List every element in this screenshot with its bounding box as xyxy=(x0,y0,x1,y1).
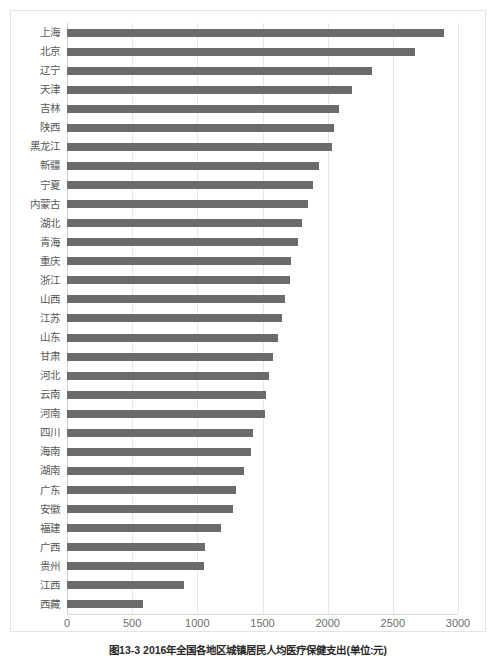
category-label: 江苏 xyxy=(40,309,60,328)
x-tick-label: 3000 xyxy=(446,617,470,629)
bar xyxy=(67,219,302,227)
bar-row: 新疆 xyxy=(67,156,458,175)
bar-row: 广东 xyxy=(67,481,458,500)
bar-row: 山西 xyxy=(67,290,458,309)
bar xyxy=(67,238,298,246)
category-label: 上海 xyxy=(40,23,60,42)
bar-row: 浙江 xyxy=(67,271,458,290)
bar xyxy=(67,391,266,399)
bar xyxy=(67,181,313,189)
figure-caption: 图13-3 2016年全国各地区城镇居民人均医疗保健支出(单位:元) xyxy=(0,641,496,660)
bar-row: 青海 xyxy=(67,233,458,252)
x-tick-label: 500 xyxy=(123,617,141,629)
bar xyxy=(67,143,332,151)
category-label: 吉林 xyxy=(40,99,60,118)
bar-row: 河南 xyxy=(67,404,458,423)
bar-row: 湖南 xyxy=(67,461,458,480)
bar-row: 陕西 xyxy=(67,118,458,137)
figure-container: 上海北京辽宁天津吉林陕西黑龙江新疆宁夏内蒙古湖北青海重庆浙江山西江苏山东甘肃河北… xyxy=(10,10,486,632)
bar xyxy=(67,29,444,37)
bar xyxy=(67,524,221,532)
bar-row: 江西 xyxy=(67,576,458,595)
category-label: 广西 xyxy=(40,538,60,557)
category-label: 四川 xyxy=(40,423,60,442)
bar xyxy=(67,162,319,170)
category-label: 福建 xyxy=(40,519,60,538)
category-label: 新疆 xyxy=(40,156,60,175)
bar xyxy=(67,334,278,342)
bar-row: 重庆 xyxy=(67,252,458,271)
x-tick-label: 2000 xyxy=(315,617,339,629)
category-label: 天津 xyxy=(40,80,60,99)
x-tick-label: 0 xyxy=(64,617,70,629)
bar-row: 宁夏 xyxy=(67,176,458,195)
bar-row: 福建 xyxy=(67,519,458,538)
bar xyxy=(67,505,233,513)
bar-row: 西藏 xyxy=(67,595,458,614)
x-tick-label: 1000 xyxy=(185,617,209,629)
bar-row: 湖北 xyxy=(67,214,458,233)
bar xyxy=(67,314,282,322)
bar xyxy=(67,410,265,418)
bar-row: 黑龙江 xyxy=(67,137,458,156)
x-tick-label: 2500 xyxy=(381,617,405,629)
bar xyxy=(67,257,291,265)
bar xyxy=(67,429,253,437)
category-label: 浙江 xyxy=(40,271,60,290)
category-label: 湖南 xyxy=(40,461,60,480)
bar-row: 四川 xyxy=(67,423,458,442)
bar xyxy=(67,48,415,56)
bar xyxy=(67,105,339,113)
category-label: 山东 xyxy=(40,328,60,347)
bar-row: 河北 xyxy=(67,366,458,385)
bar xyxy=(67,448,251,456)
bar xyxy=(67,581,184,589)
bar xyxy=(67,124,334,132)
category-label: 河北 xyxy=(40,366,60,385)
category-label: 黑龙江 xyxy=(30,137,60,156)
bar-row: 内蒙古 xyxy=(67,195,458,214)
bar xyxy=(67,295,285,303)
bar-row: 安徽 xyxy=(67,500,458,519)
bar xyxy=(67,467,244,475)
category-label: 云南 xyxy=(40,385,60,404)
bar xyxy=(67,86,352,94)
category-label: 宁夏 xyxy=(40,176,60,195)
x-axis-baseline xyxy=(67,614,458,615)
bar-row: 天津 xyxy=(67,80,458,99)
category-label: 海南 xyxy=(40,442,60,461)
category-label: 广东 xyxy=(40,481,60,500)
bar xyxy=(67,200,308,208)
bar xyxy=(67,353,273,361)
bar-row: 吉林 xyxy=(67,99,458,118)
category-label: 内蒙古 xyxy=(30,195,60,214)
plot-area: 上海北京辽宁天津吉林陕西黑龙江新疆宁夏内蒙古湖北青海重庆浙江山西江苏山东甘肃河北… xyxy=(67,23,458,614)
bar-row: 海南 xyxy=(67,442,458,461)
category-label: 青海 xyxy=(40,233,60,252)
bar-row: 山东 xyxy=(67,328,458,347)
category-label: 甘肃 xyxy=(40,347,60,366)
category-label: 重庆 xyxy=(40,252,60,271)
category-label: 贵州 xyxy=(40,557,60,576)
category-label: 西藏 xyxy=(40,595,60,614)
category-label: 辽宁 xyxy=(40,61,60,80)
category-label: 北京 xyxy=(40,42,60,61)
category-label: 陕西 xyxy=(40,118,60,137)
bar xyxy=(67,372,269,380)
bar-row: 云南 xyxy=(67,385,458,404)
bar xyxy=(67,67,372,75)
gridline-3000 xyxy=(458,23,459,614)
bar-row: 贵州 xyxy=(67,557,458,576)
bar-row: 广西 xyxy=(67,538,458,557)
bar xyxy=(67,486,236,494)
category-label: 河南 xyxy=(40,404,60,423)
bar-row: 江苏 xyxy=(67,309,458,328)
bar xyxy=(67,543,205,551)
category-label: 安徽 xyxy=(40,500,60,519)
x-tick-label: 1500 xyxy=(250,617,274,629)
bar-row: 北京 xyxy=(67,42,458,61)
bar xyxy=(67,276,290,284)
bar-row: 甘肃 xyxy=(67,347,458,366)
bar xyxy=(67,600,143,608)
bar-row: 上海 xyxy=(67,23,458,42)
